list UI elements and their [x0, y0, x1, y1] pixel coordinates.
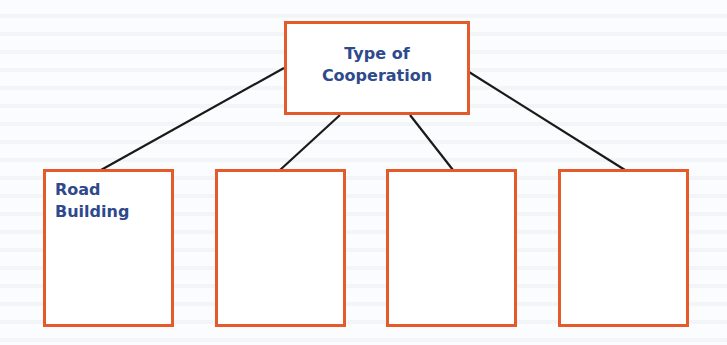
root-node-label: Type of Cooperation	[322, 43, 432, 93]
connector-root-to-child-2	[280, 115, 340, 170]
child-node-blank-3[interactable]	[386, 169, 517, 327]
root-label-line-2: Cooperation	[322, 65, 432, 87]
child-node-blank-4[interactable]	[558, 169, 689, 327]
child-1-label: Road Building	[55, 179, 129, 223]
connector-root-to-child-3	[410, 115, 453, 170]
child-1-label-line-2: Building	[55, 201, 129, 223]
child-node-blank-2[interactable]	[215, 169, 346, 327]
connector-root-to-child-4	[469, 72, 625, 170]
root-label-line-1: Type of	[322, 43, 432, 65]
child-1-label-line-1: Road	[55, 179, 129, 201]
child-node-road-building[interactable]: Road Building	[43, 169, 174, 327]
connector-root-to-child-1	[101, 68, 284, 170]
root-node-type-of-cooperation: Type of Cooperation	[284, 21, 470, 115]
